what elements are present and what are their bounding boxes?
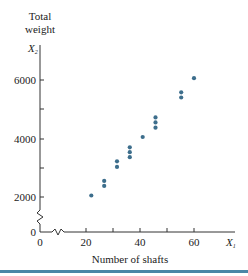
data-point [192, 76, 196, 80]
data-point [128, 150, 132, 154]
data-point [89, 193, 93, 197]
data-point [179, 95, 183, 99]
x-axis-break-icon [52, 229, 64, 235]
y-axis-variable: X2 [27, 42, 38, 55]
data-points [89, 76, 196, 197]
data-point [179, 90, 183, 94]
x-axis-title: Number of shafts [92, 253, 168, 265]
x-tick-label-20: 20 [81, 236, 93, 248]
data-point [153, 126, 157, 130]
y-axis-break-icon [37, 210, 43, 224]
data-point [115, 159, 119, 163]
y-tick-label-4000: 4000 [14, 133, 37, 145]
y-axis-title-line2: weight [25, 23, 55, 35]
x-tick-label-0: 0 [37, 236, 43, 248]
data-point [153, 115, 157, 119]
data-point [102, 179, 106, 183]
data-point [153, 120, 157, 124]
bottom-divider [0, 270, 248, 273]
data-point [128, 145, 132, 149]
x-tick-label-60: 60 [189, 236, 201, 248]
y-tick-label-6000: 6000 [14, 74, 37, 86]
data-point [102, 184, 106, 188]
y-axis-title-line1: Total [29, 10, 51, 22]
data-point [128, 155, 132, 159]
y-tick-label-2000: 2000 [14, 191, 37, 203]
x-axis-variable: X1 [225, 236, 236, 249]
y-tick-label-0: 0 [31, 226, 37, 238]
scatter-chart: Total weight X2 6000 4000 2000 0 0 20 40… [0, 0, 248, 276]
x-tick-label-40: 40 [135, 236, 147, 248]
data-point [141, 135, 145, 139]
data-point [115, 165, 119, 169]
